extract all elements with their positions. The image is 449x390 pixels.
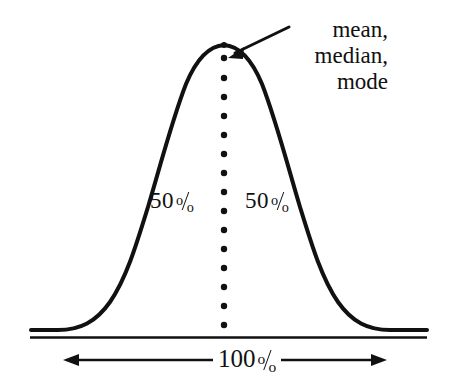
bell-curve-figure: 50oo 50oo 100oo mean, median, mode <box>0 0 449 390</box>
center-dotted-line <box>221 42 227 328</box>
callout-line-median: median, <box>286 43 388 69</box>
percent-sign-right: oo <box>271 188 290 214</box>
callout-line-mode: mode <box>286 69 388 95</box>
callout-arrow <box>228 27 289 59</box>
callout-line-mean: mean, <box>286 17 388 43</box>
left-half-percent-value: 50 <box>150 188 174 213</box>
total-percent-label: 100oo <box>218 345 277 373</box>
right-half-percent-label: 50oo <box>245 188 290 214</box>
percent-sign-total: oo <box>258 345 278 373</box>
dimension-arrow-right <box>281 354 387 366</box>
total-percent-value: 100 <box>218 345 256 372</box>
dimension-arrow-left <box>63 354 213 366</box>
right-half-percent-value: 50 <box>245 188 269 213</box>
left-half-percent-label: 50oo <box>150 188 195 214</box>
percent-sign-left: oo <box>176 188 195 214</box>
central-tendency-callout: mean, median, mode <box>286 17 388 95</box>
